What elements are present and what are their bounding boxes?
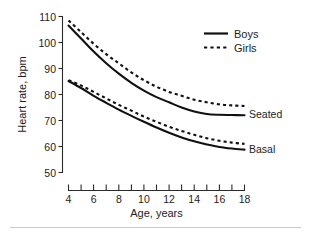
y-axis-tick-labels: 110 100 90 80 70 60 50 bbox=[38, 11, 56, 179]
x-axis-title: Age, years bbox=[130, 207, 183, 219]
y-axis-title: Heart rate, bpm bbox=[16, 56, 28, 132]
y-tick-label-80: 80 bbox=[44, 89, 56, 101]
legend: Boys Girls bbox=[204, 28, 259, 54]
legend-label-boys: Boys bbox=[234, 28, 259, 40]
y-tick-label-60: 60 bbox=[44, 141, 56, 153]
y-tick-label-100: 100 bbox=[38, 37, 56, 49]
y-tick-label-70: 70 bbox=[44, 115, 56, 127]
x-axis-tick-labels: 4 6 8 10 12 14 16 18 bbox=[66, 193, 251, 205]
y-axis-ticks bbox=[59, 17, 63, 173]
x-tick-label-8: 8 bbox=[116, 193, 122, 205]
y-tick-label-50: 50 bbox=[44, 167, 56, 179]
x-tick-label-4: 4 bbox=[66, 193, 72, 205]
x-axis-ticks bbox=[69, 185, 245, 191]
group-annotations: Seated Basal bbox=[249, 108, 282, 155]
legend-label-girls: Girls bbox=[234, 42, 257, 54]
y-tick-label-110: 110 bbox=[39, 11, 56, 23]
x-tick-label-6: 6 bbox=[91, 193, 97, 205]
curve-seated-boys bbox=[69, 26, 245, 116]
x-tick-label-14: 14 bbox=[188, 193, 200, 205]
x-tick-label-16: 16 bbox=[214, 193, 226, 205]
x-tick-label-18: 18 bbox=[239, 193, 251, 205]
chart-figure: 110 100 90 80 70 60 50 Heart rate, bpm bbox=[0, 0, 311, 233]
curve-basal-girls bbox=[69, 80, 245, 144]
x-tick-label-10: 10 bbox=[138, 193, 150, 205]
heart-rate-line-chart: 110 100 90 80 70 60 50 Heart rate, bpm bbox=[0, 0, 311, 233]
x-tick-label-12: 12 bbox=[163, 193, 175, 205]
group-label-seated: Seated bbox=[249, 108, 282, 120]
y-tick-label-90: 90 bbox=[44, 63, 56, 75]
group-label-basal: Basal bbox=[249, 143, 275, 155]
data-curves bbox=[69, 20, 245, 149]
